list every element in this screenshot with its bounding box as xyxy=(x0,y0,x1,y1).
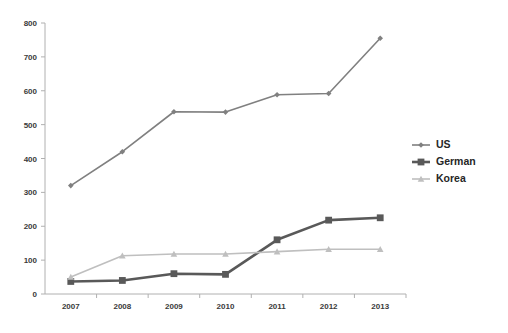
y-tick-label: 800 xyxy=(24,19,38,28)
data-point-marker xyxy=(377,214,384,221)
data-point-marker xyxy=(119,277,126,284)
chart-background xyxy=(0,0,508,333)
line-chart-svg: 0100200300400500600700800 20072008200920… xyxy=(0,0,508,333)
x-tick-label: 2009 xyxy=(165,302,183,311)
legend-label: German xyxy=(436,155,476,167)
y-tick-label: 100 xyxy=(24,256,38,265)
data-point-marker xyxy=(325,217,332,224)
x-tick-label: 2012 xyxy=(320,302,338,311)
y-tick-label: 500 xyxy=(24,121,38,130)
data-point-marker xyxy=(418,159,425,166)
x-tick-label: 2008 xyxy=(113,302,131,311)
y-tick-label: 200 xyxy=(24,222,38,231)
plot-area: 0100200300400500600700800 20072008200920… xyxy=(0,0,508,333)
x-tick-label: 2011 xyxy=(268,302,286,311)
y-tick-label: 600 xyxy=(24,87,38,96)
y-tick-label: 400 xyxy=(24,155,38,164)
x-tick-label: 2007 xyxy=(62,302,80,311)
legend-label: US xyxy=(436,138,451,150)
chart-container: 0100200300400500600700800 20072008200920… xyxy=(0,0,508,333)
data-point-marker xyxy=(274,236,281,243)
data-point-marker xyxy=(171,270,178,277)
x-tick-label: 2013 xyxy=(371,302,389,311)
x-tick-label: 2010 xyxy=(217,302,235,311)
y-tick-label: 300 xyxy=(24,188,38,197)
y-tick-label: 700 xyxy=(24,53,38,62)
data-point-marker xyxy=(222,271,229,278)
legend-label: Korea xyxy=(436,172,466,184)
y-tick-label: 0 xyxy=(33,290,38,299)
